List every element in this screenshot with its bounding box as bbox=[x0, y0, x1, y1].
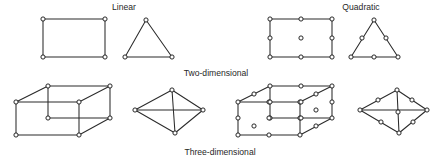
quadratic-tetrahedron-node bbox=[396, 110, 400, 114]
linear-hexahedron-node bbox=[108, 116, 112, 120]
quadratic-quadrilateral bbox=[268, 17, 334, 59]
quadratic-triangle-node bbox=[372, 55, 376, 59]
linear-tetrahedron-edge bbox=[172, 90, 175, 133]
quadratic-hexahedron-node bbox=[330, 84, 334, 88]
quadratic-quadrilateral-node bbox=[299, 36, 303, 40]
caption-two-dimensional: Two-dimensional bbox=[184, 68, 249, 78]
quadratic-triangle bbox=[349, 18, 400, 59]
quadratic-hexahedron-node bbox=[299, 100, 303, 104]
linear-triangle-node bbox=[144, 18, 148, 22]
linear-triangle-node bbox=[123, 55, 127, 59]
linear-quadrilateral-node bbox=[103, 55, 107, 59]
quadratic-tetrahedron bbox=[358, 88, 429, 135]
quadratic-quadrilateral-node bbox=[268, 36, 272, 40]
caption-linear: Linear bbox=[112, 2, 136, 12]
linear-triangle-edge bbox=[125, 20, 146, 57]
quadratic-hexahedron-node bbox=[267, 133, 271, 137]
quadratic-tetrahedron-node bbox=[358, 108, 362, 112]
quadratic-hexahedron-node bbox=[314, 124, 318, 128]
linear-hexahedron-node bbox=[77, 133, 81, 137]
linear-tetrahedron bbox=[133, 88, 205, 135]
linear-tetrahedron-node bbox=[173, 131, 177, 135]
quadratic-tetrahedron-node bbox=[376, 98, 380, 102]
linear-hexahedron-node bbox=[46, 116, 50, 120]
linear-hexahedron-edge bbox=[79, 86, 110, 102]
linear-hexahedron-node bbox=[14, 133, 18, 137]
element-diagram-canvas: LinearQuadraticTwo-dimensionalThree-dime… bbox=[0, 0, 445, 161]
caption-quadratic: Quadratic bbox=[342, 2, 380, 12]
linear-quadrilateral bbox=[41, 17, 107, 59]
linear-hexahedron-node bbox=[14, 100, 18, 104]
quadratic-triangle-node bbox=[384, 36, 388, 40]
quadratic-hexahedron bbox=[236, 84, 334, 137]
linear-tetrahedron-edge bbox=[135, 110, 175, 133]
linear-tetrahedron-node bbox=[170, 88, 174, 92]
quadratic-tetrahedron-node bbox=[397, 131, 401, 135]
linear-hexahedron-node bbox=[108, 84, 112, 88]
quadratic-hexahedron-node bbox=[298, 133, 302, 137]
quadratic-triangle-node bbox=[372, 18, 376, 22]
linear-triangle bbox=[123, 18, 174, 59]
quadratic-quadrilateral-node bbox=[330, 55, 334, 59]
quadratic-hexahedron-node bbox=[268, 100, 272, 104]
quadratic-hexahedron-node bbox=[330, 116, 334, 120]
linear-hexahedron-node bbox=[46, 84, 50, 88]
linear-hexahedron-edge bbox=[79, 118, 110, 135]
quadratic-hexahedron-node bbox=[267, 116, 271, 120]
quadratic-hexahedron-node bbox=[236, 100, 240, 104]
linear-tetrahedron-node bbox=[133, 108, 137, 112]
linear-quadrilateral-node bbox=[41, 55, 45, 59]
quadratic-hexahedron-node bbox=[236, 133, 240, 137]
linear-hexahedron-node bbox=[77, 100, 81, 104]
quadratic-hexahedron-node bbox=[236, 116, 240, 120]
quadratic-hexahedron-node bbox=[252, 92, 256, 96]
quadratic-hexahedron-node bbox=[299, 84, 303, 88]
linear-tetrahedron-edge bbox=[135, 90, 172, 110]
quadratic-quadrilateral-node bbox=[299, 17, 303, 21]
quadratic-hexahedron-node bbox=[268, 84, 272, 88]
linear-triangle-node bbox=[170, 55, 174, 59]
quadratic-quadrilateral-node bbox=[299, 55, 303, 59]
finite-element-types-figure: LinearQuadraticTwo-dimensionalThree-dime… bbox=[0, 0, 445, 161]
linear-hexahedron-edge bbox=[16, 86, 48, 102]
quadratic-tetrahedron-node bbox=[425, 108, 429, 112]
quadratic-hexahedron-node bbox=[252, 124, 256, 128]
quadratic-hexahedron-node bbox=[330, 100, 334, 104]
quadratic-hexahedron-node bbox=[314, 108, 318, 112]
quadratic-tetrahedron-node bbox=[379, 120, 383, 124]
quadratic-hexahedron-node bbox=[314, 92, 318, 96]
quadratic-quadrilateral-node bbox=[268, 17, 272, 21]
quadratic-quadrilateral-node bbox=[330, 17, 334, 21]
linear-tetrahedron-node bbox=[201, 108, 205, 112]
caption-three-dimensional: Three-dimensional bbox=[184, 147, 255, 157]
linear-triangle-edge bbox=[146, 20, 172, 57]
quadratic-tetrahedron-node bbox=[411, 120, 415, 124]
quadratic-tetrahedron-node bbox=[395, 88, 399, 92]
linear-quadrilateral-node bbox=[103, 17, 107, 21]
linear-quadrilateral-node bbox=[41, 17, 45, 21]
quadratic-hexahedron-node bbox=[299, 116, 303, 120]
quadratic-triangle-node bbox=[349, 55, 353, 59]
quadratic-triangle-node bbox=[360, 36, 364, 40]
linear-tetrahedron-edge bbox=[172, 90, 203, 110]
quadratic-quadrilateral-node bbox=[330, 36, 334, 40]
linear-hexahedron bbox=[14, 84, 112, 137]
linear-tetrahedron-edge bbox=[175, 110, 203, 133]
quadratic-quadrilateral-node bbox=[268, 55, 272, 59]
quadratic-triangle-node bbox=[396, 55, 400, 59]
quadratic-tetrahedron-node bbox=[410, 98, 414, 102]
